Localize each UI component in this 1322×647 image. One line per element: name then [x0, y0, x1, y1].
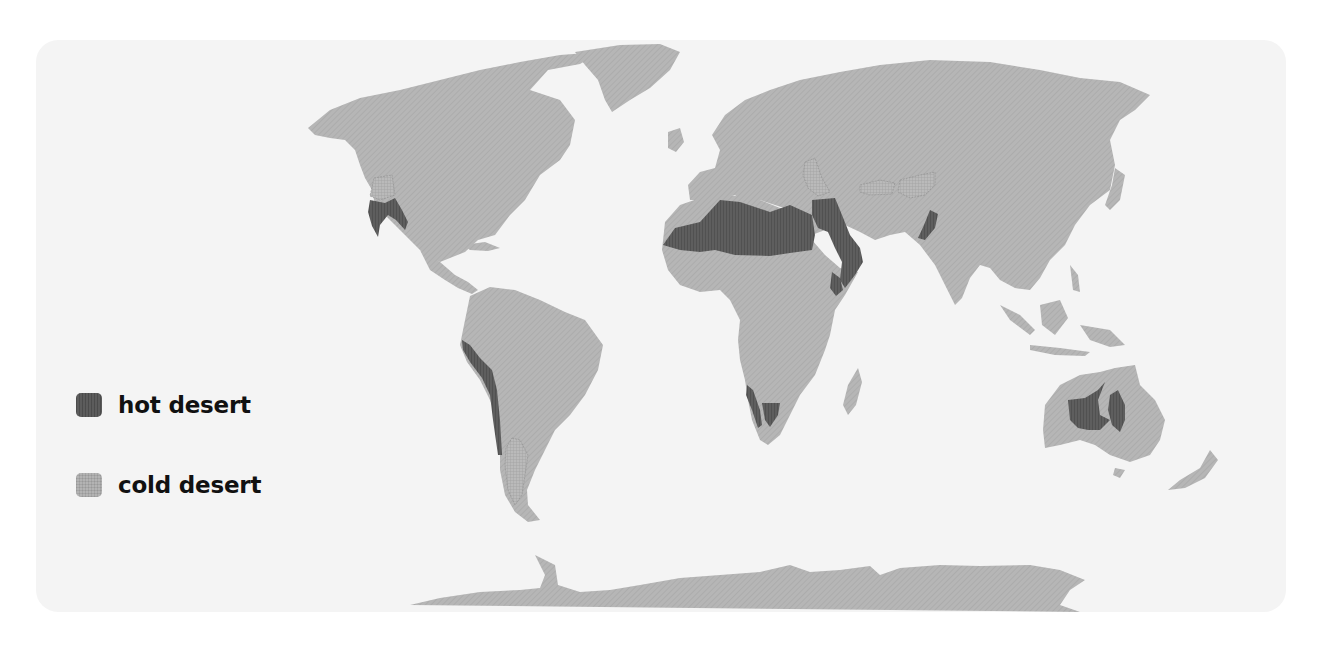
hot-desert-swatch-icon — [76, 393, 102, 417]
legend-label-cold-desert: cold desert — [118, 472, 261, 498]
greenland — [575, 44, 680, 112]
land-masses — [308, 44, 1218, 612]
antarctica — [410, 555, 1085, 612]
australia — [1043, 365, 1165, 462]
madagascar — [843, 368, 862, 415]
world-map — [0, 0, 1322, 647]
north-america — [308, 52, 600, 262]
cold-desert-swatch-icon — [76, 473, 102, 497]
great-basin-cold-desert — [370, 175, 395, 200]
legend-item-cold-desert: cold desert — [76, 472, 261, 498]
south-america — [460, 287, 603, 522]
legend-label-hot-desert: hot desert — [118, 392, 251, 418]
legend-item-hot-desert: hot desert — [76, 392, 251, 418]
